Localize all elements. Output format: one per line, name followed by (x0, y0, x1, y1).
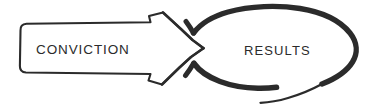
results-label: RESULTS (244, 43, 311, 58)
loop-left-upper-stub (186, 22, 194, 34)
loop-lower-arc (194, 64, 277, 89)
conviction-label: CONVICTION (36, 42, 130, 57)
loop-left-lower-stub (186, 63, 194, 76)
diagram-canvas: CONVICTION RESULTS (0, 0, 375, 109)
